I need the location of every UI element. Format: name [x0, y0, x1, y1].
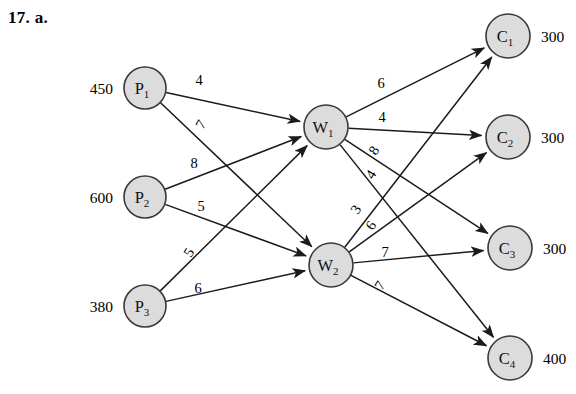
- node-C2: C2: [486, 115, 530, 159]
- edge-P2-W1: [165, 137, 301, 190]
- node-P2: P2: [124, 176, 166, 218]
- cost-label-W2-C3: 7: [381, 244, 388, 260]
- node-layer: P1450P2600P3380W1W2C1300C2300C3300C4400: [90, 14, 567, 380]
- cost-label-W1-C2: 4: [378, 109, 386, 125]
- demand-value-C4: 400: [543, 350, 567, 367]
- cost-label-W2-C1: 3: [347, 202, 364, 217]
- edge-W2-C2: [349, 153, 486, 252]
- edge-P1-W1: [166, 93, 300, 122]
- node-C4: C4: [488, 336, 532, 380]
- node-P1: P1: [124, 67, 166, 109]
- node-P3: P3: [124, 285, 166, 327]
- cost-label-P2-W2: 5: [197, 198, 204, 214]
- edge-layer: [160, 48, 493, 346]
- edge-P1-W2: [161, 103, 312, 247]
- cost-label-W1-C4: 4: [362, 166, 380, 181]
- cost-label-P2-W1: 8: [190, 155, 197, 171]
- node-C3: C3: [488, 226, 532, 270]
- cost-label-W1-C1: 6: [377, 75, 384, 91]
- cost-label-W1-C3: 8: [365, 143, 382, 158]
- cost-label-P3-W1: 5: [180, 245, 197, 260]
- cost-label-W2-C2: 6: [362, 218, 379, 233]
- cost-label-P1-W2: 7: [192, 117, 209, 132]
- supply-value-P1: 450: [90, 80, 114, 97]
- edge-P3-W2: [166, 271, 305, 302]
- supply-value-P2: 600: [90, 189, 114, 206]
- network-diagram: P1450P2600P3380W1W2C1300C2300C3300C4400 …: [0, 0, 576, 394]
- node-W1: W1: [304, 105, 348, 149]
- node-W2: W2: [309, 243, 353, 287]
- edge-W2-C4: [351, 275, 487, 345]
- supply-value-P3: 380: [90, 298, 114, 315]
- demand-value-C2: 300: [541, 129, 565, 146]
- cost-label-P1-W1: 4: [195, 72, 203, 88]
- node-C1: C1: [486, 14, 530, 58]
- edge-P3-W1: [160, 146, 307, 291]
- edge-W1-C1: [346, 48, 484, 117]
- demand-value-C1: 300: [541, 28, 565, 45]
- cost-label-W2-C4: 7: [371, 278, 388, 293]
- cost-label-P3-W2: 6: [194, 280, 201, 296]
- demand-value-C3: 300: [543, 240, 567, 257]
- edge-W2-C3: [353, 251, 483, 263]
- figure-canvas: 17. a. P1450P2600P3380W1W2C1300C2300C330…: [0, 0, 576, 394]
- edge-W1-C2: [348, 128, 481, 135]
